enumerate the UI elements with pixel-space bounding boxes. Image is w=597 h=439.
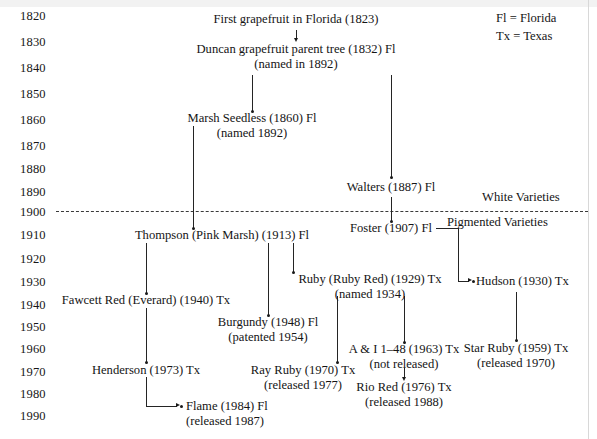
year-label-1980: 1980 (20, 388, 46, 401)
node-first-grapefruit: First grapefruit in Florida (1823) (213, 12, 378, 27)
year-label-1930: 1930 (20, 276, 46, 289)
year-label-1990: 1990 (20, 410, 46, 423)
connector-henderson-to-flame-drop (146, 377, 147, 407)
node-flame: Flame (1984) Fl (released 1987) (186, 399, 268, 428)
connector-duncan-to-marsh (252, 75, 253, 111)
node-duncan-sublabel: (named in 1892) (197, 57, 396, 72)
node-hudson: Hudson (1930) Tx (476, 274, 569, 289)
connector-thompson-to-fawcett (146, 243, 147, 293)
node-star-ruby-label: Star Ruby (1959) Tx (464, 341, 568, 355)
node-ray-ruby-label: Ray Ruby (1970) Tx (251, 363, 355, 377)
node-ray-ruby-sublabel: (released 1977) (251, 378, 355, 393)
year-label-1960: 1960 (20, 343, 46, 356)
year-label-1940: 1940 (20, 299, 46, 312)
connector-marsh-to-thompson (193, 126, 194, 228)
year-label-1880: 1880 (20, 163, 46, 176)
legend-florida: Fl = Florida (496, 10, 556, 26)
year-label-1860: 1860 (20, 114, 46, 127)
node-duncan-label: Duncan grapefruit parent tree (1832) Fl (197, 42, 396, 56)
year-label-1830: 1830 (20, 36, 46, 49)
node-ray-ruby: Ray Ruby (1970) Tx (released 1977) (251, 363, 355, 392)
node-rio-red: Rio Red (1976) Tx (released 1988) (356, 380, 451, 409)
connector-thompson-to-ruby (293, 243, 294, 272)
connector-henderson-to-flame-bottom (146, 406, 177, 407)
node-henderson-label: Henderson (1973) Tx (92, 363, 200, 377)
node-burgundy-sublabel: (patented 1954) (218, 330, 319, 345)
node-hudson-label: Hudson (1930) Tx (476, 274, 569, 288)
node-ruby: Ruby (Ruby Red) (1929) Tx (named 1934) (298, 272, 441, 301)
node-fawcett-red: Fawcett Red (Everard) (1940) Tx (62, 293, 230, 308)
node-rio-red-sublabel: (released 1988) (356, 395, 451, 410)
node-flame-label: Flame (1984) Fl (186, 399, 268, 413)
year-label-1850: 1850 (20, 88, 46, 101)
connector-foster-to-hudson-top (436, 228, 459, 229)
endpoint-dot-ruby (292, 271, 295, 274)
year-label-1970: 1970 (20, 366, 46, 379)
band-label-white: White Varieties (482, 190, 560, 204)
year-label-1950: 1950 (20, 321, 46, 334)
node-walters-label: Walters (1887) Fl (347, 180, 436, 194)
node-first-grapefruit-label: First grapefruit in Florida (1823) (213, 12, 378, 26)
legend-texas: Tx = Texas (496, 28, 552, 44)
node-flame-sublabel: (released 1987) (186, 414, 268, 429)
node-foster: Foster (1907) Fl (350, 221, 432, 236)
scan-artifact-top-band (0, 0, 597, 7)
node-a-and-i-1-48: A & I 1–48 (1963) Tx (not released) (349, 342, 460, 371)
node-a-and-i-1-48-sublabel: (not released) (349, 357, 460, 372)
node-thompson: Thompson (Pink Marsh) (1913) Fl (135, 228, 309, 243)
connector-hudson-to-star-ruby (516, 292, 517, 340)
band-label-pigmented: Pigmented Varieties (447, 215, 548, 229)
node-ruby-sublabel: (named 1934) (298, 287, 441, 302)
node-fawcett-red-label: Fawcett Red (Everard) (1940) Tx (62, 293, 230, 307)
pedigree-figure: 1820 1830 1840 1850 1860 1870 1880 1890 … (0, 0, 597, 439)
connector-ruby-to-a-and-i (404, 296, 405, 342)
connector-duncan-to-walters (391, 75, 392, 177)
node-duncan: Duncan grapefruit parent tree (1832) Fl … (197, 42, 396, 71)
endpoint-dot-flame (180, 405, 183, 408)
endpoint-dot-walters (390, 176, 393, 179)
year-label-1820: 1820 (20, 10, 46, 23)
node-henderson: Henderson (1973) Tx (92, 363, 200, 378)
connector-walters-to-foster (391, 197, 392, 221)
connector-fawcett-to-henderson (146, 308, 147, 362)
node-foster-label: Foster (1907) Fl (350, 221, 432, 235)
connector-ruby-to-ray-ruby (337, 296, 338, 362)
year-label-1840: 1840 (20, 62, 46, 75)
node-burgundy: Burgundy (1948) Fl (patented 1954) (218, 315, 319, 344)
node-marsh-seedless-sublabel: (named 1892) (187, 126, 316, 141)
year-label-1900: 1900 (20, 206, 46, 219)
node-star-ruby: Star Ruby (1959) Tx (released 1970) (464, 341, 568, 370)
connector-thompson-to-burgundy (268, 243, 269, 315)
node-thompson-label: Thompson (Pink Marsh) (1913) Fl (135, 228, 309, 242)
white-pigmented-divider (56, 211, 588, 212)
node-marsh-seedless-label: Marsh Seedless (1860) Fl (187, 111, 316, 125)
endpoint-dot-hudson (472, 280, 475, 283)
connector-foster-to-hudson-drop (458, 228, 459, 281)
scan-artifact-right-rule (588, 0, 589, 439)
year-label-1920: 1920 (20, 253, 46, 266)
node-rio-red-label: Rio Red (1976) Tx (356, 380, 451, 394)
node-a-and-i-1-48-label: A & I 1–48 (1963) Tx (349, 342, 460, 356)
year-label-1870: 1870 (20, 140, 46, 153)
node-ruby-label: Ruby (Ruby Red) (1929) Tx (298, 272, 441, 286)
node-burgundy-label: Burgundy (1948) Fl (218, 315, 319, 329)
node-star-ruby-sublabel: (released 1970) (464, 356, 568, 371)
node-marsh-seedless: Marsh Seedless (1860) Fl (named 1892) (187, 111, 316, 140)
node-walters: Walters (1887) Fl (347, 180, 436, 195)
year-label-1890: 1890 (20, 186, 46, 199)
year-label-1910: 1910 (20, 229, 46, 242)
